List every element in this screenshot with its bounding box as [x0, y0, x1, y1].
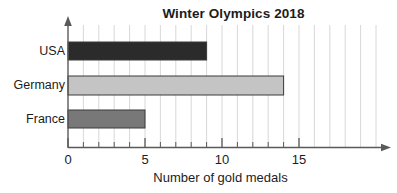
x-axis-title-text: Number of gold medals: [153, 170, 287, 185]
bar-chart: Winter Olympics 2018: [0, 0, 397, 193]
x-axis-title: Number of gold medals: [0, 170, 397, 185]
x-tick-label-15: 15: [284, 152, 314, 167]
category-label-germany: Germany: [14, 78, 65, 92]
x-axis-arrow-icon: [381, 144, 391, 151]
y-axis-arrow-icon: [64, 16, 72, 26]
x-tick-label-10: 10: [207, 152, 237, 167]
x-axis-minor-ticks: [83, 142, 283, 147]
bar-usa: [68, 42, 207, 60]
x-tick-label-0: 0: [53, 152, 83, 167]
category-label-france: France: [26, 112, 65, 126]
category-label-usa: USA: [39, 44, 65, 58]
x-tick-label-5: 5: [130, 152, 160, 167]
x-axis-major-ticks: [68, 138, 299, 147]
bar-germany: [68, 76, 284, 95]
bar-france: [68, 110, 145, 128]
